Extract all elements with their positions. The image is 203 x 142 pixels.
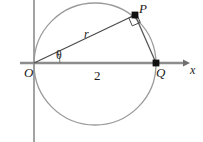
- label-angle-theta: θ: [56, 49, 62, 61]
- label-point-p: P: [139, 2, 147, 15]
- geometry-figure: O P Q x r θ 2: [0, 0, 203, 142]
- x-axis-arrowhead: [183, 60, 190, 67]
- segment-PQ: [135, 15, 156, 63]
- label-point-q: Q: [156, 66, 165, 79]
- label-diameter-two: 2: [94, 69, 101, 82]
- label-radius-r: r: [84, 28, 89, 40]
- point-marker-p: [132, 12, 139, 19]
- label-origin: O: [24, 66, 33, 79]
- label-x-axis: x: [190, 64, 195, 76]
